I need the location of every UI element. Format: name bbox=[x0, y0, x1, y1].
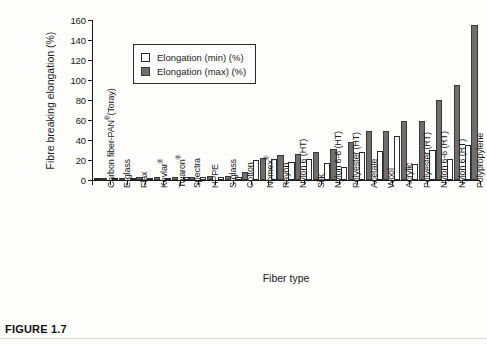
x-category-label: HPPE bbox=[210, 164, 220, 188]
y-tick-label: 80 bbox=[76, 95, 86, 106]
x-category-label: Flax bbox=[139, 172, 149, 188]
figure-caption: FIGURE 1.7 bbox=[5, 323, 67, 335]
x-category-label: Carbon fiber-PAN®(Toray) bbox=[104, 88, 116, 188]
x-category-label: S-glass bbox=[228, 159, 238, 188]
y-tick-label: 140 bbox=[70, 35, 86, 46]
y-tick-label: 0 bbox=[81, 175, 86, 186]
x-category-label: Nomex® bbox=[263, 156, 275, 188]
x-axis-category-labels: Carbon fiber-PAN®(Toray)E-glassFlaxKevla… bbox=[92, 186, 480, 286]
chart-legend: Elongation (min) (%) Elongation (max) (%… bbox=[133, 44, 256, 84]
x-category-label: Nylon 6 (RT) bbox=[457, 139, 467, 188]
x-category-label: Cotton bbox=[245, 162, 255, 188]
x-category-label: Twaron® bbox=[175, 155, 187, 188]
y-tick-label: 60 bbox=[76, 115, 86, 126]
x-category-label: Nylon 6-6 (HT) bbox=[333, 131, 343, 188]
x-category-label: Spectra bbox=[192, 158, 202, 188]
legend-label-max: Elongation (max) (%) bbox=[157, 66, 246, 77]
x-category-label: E-glass bbox=[122, 159, 132, 188]
legend-swatch-max-icon bbox=[141, 67, 150, 76]
y-tick-label: 100 bbox=[70, 75, 86, 86]
legend-item-max: Elongation (max) (%) bbox=[141, 64, 246, 78]
legend-swatch-min-icon bbox=[141, 53, 150, 62]
x-category-label: Kevlar® bbox=[157, 159, 169, 188]
x-category-label: Wool bbox=[386, 168, 396, 188]
x-category-label: Silk bbox=[316, 174, 326, 188]
x-category-label: Acrylic bbox=[404, 163, 414, 188]
x-category-label: Nylon 6-6 (RT) bbox=[439, 131, 449, 188]
x-category-label: Polyester (HT) bbox=[351, 132, 361, 188]
legend-label-min: Elongation (min) (%) bbox=[157, 52, 244, 63]
x-category-label: Polypropylene bbox=[475, 133, 485, 188]
y-tick-label: 40 bbox=[76, 135, 86, 146]
y-axis-title: Fibre breaking elongation (%) bbox=[44, 20, 60, 181]
caption-divider bbox=[0, 338, 487, 339]
x-category-label: Polyester (RT) bbox=[422, 132, 432, 188]
y-tick-label: 20 bbox=[76, 155, 86, 166]
x-category-label: Acetate bbox=[369, 159, 379, 188]
legend-item-min: Elongation (min) (%) bbox=[141, 50, 246, 64]
x-category-label: Nylon 6 (HT) bbox=[298, 139, 308, 188]
x-axis-title: Fiber type bbox=[92, 272, 480, 284]
figure-container: Fibre breaking elongation (%) 0204060801… bbox=[0, 0, 487, 345]
bar-min bbox=[94, 178, 100, 180]
y-tick-label: 120 bbox=[70, 55, 86, 66]
x-category-label: Rayon bbox=[281, 163, 291, 188]
y-tick-label: 160 bbox=[70, 15, 86, 26]
x-tick bbox=[92, 181, 93, 185]
